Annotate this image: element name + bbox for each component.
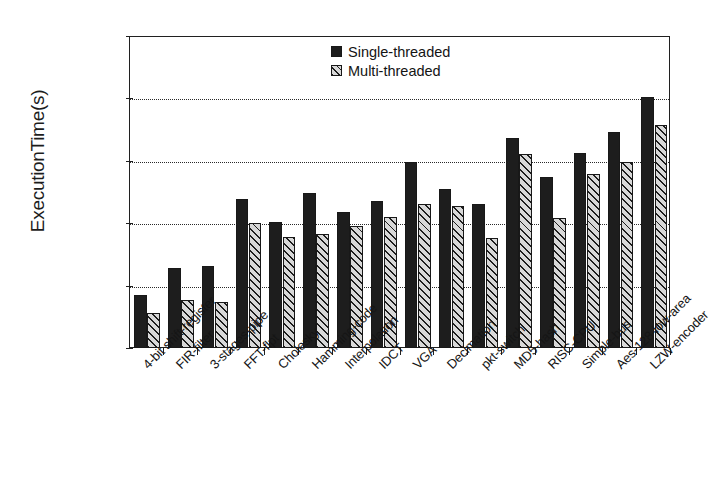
- legend-item-single-threaded: Single-threaded: [331, 42, 450, 61]
- bar-single-threaded: [134, 295, 147, 348]
- bar-single-threaded: [574, 153, 587, 348]
- bar-multi-threaded: [452, 206, 465, 348]
- bar-multi-threaded: [418, 204, 431, 348]
- bar-multi-threaded: [519, 154, 532, 348]
- legend-label-multi-threaded: Multi-threaded: [348, 63, 441, 79]
- bar-single-threaded: [439, 189, 452, 348]
- bar-single-threaded: [608, 132, 621, 348]
- legend-swatch-multi-threaded: [331, 65, 342, 76]
- y-tick-mark: [126, 348, 133, 349]
- bar-single-threaded: [405, 162, 418, 348]
- bar-single-threaded: [269, 222, 282, 348]
- legend-swatch-single-threaded: [331, 46, 342, 57]
- chart-legend: Single-threaded Multi-threaded: [331, 42, 450, 80]
- bar-single-threaded: [641, 97, 654, 348]
- bar-single-threaded: [506, 138, 519, 348]
- legend-label-single-threaded: Single-threaded: [348, 44, 450, 60]
- y-axis-label: ExecutionTime(s): [27, 31, 49, 291]
- legend-item-multi-threaded: Multi-threaded: [331, 61, 450, 80]
- bar-multi-threaded: [283, 237, 296, 348]
